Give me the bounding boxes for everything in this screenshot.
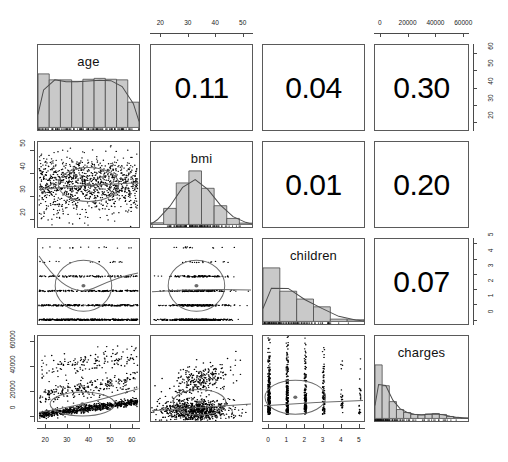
panel-graphic	[38, 239, 139, 324]
correlation-value: 0.20	[375, 168, 468, 202]
panel-variable-label: children	[263, 248, 364, 263]
axis-tick-label: 60000	[9, 331, 16, 351]
scatter-panel-children-charges	[262, 335, 365, 422]
histogram-bar	[72, 81, 83, 127]
histogram-bar	[176, 183, 189, 225]
axis-tick-label: 40	[19, 162, 26, 182]
scatter-panel-bmi-children	[150, 238, 253, 325]
loess-smoother	[264, 401, 363, 406]
axis-tick-label: 20	[149, 19, 171, 26]
scatter-points	[151, 351, 247, 421]
panel-graphic	[151, 336, 252, 421]
histogram-bar	[314, 307, 331, 322]
axis-tick-label: 40	[204, 19, 226, 26]
histogram-bar	[280, 291, 297, 321]
axis-tick-label: 50	[19, 139, 26, 159]
scatter-panel-age-charges	[37, 335, 140, 422]
correlation-value: 0.30	[375, 71, 468, 105]
histogram-bar	[396, 410, 403, 419]
correlation-panel-children-bmi: 0.01	[262, 141, 365, 228]
panel-variable-label: charges	[375, 345, 468, 360]
histogram-bar	[94, 78, 105, 127]
diagonal-panel-bmi: bmi	[150, 141, 253, 228]
histogram-bar	[105, 79, 116, 127]
correlation-panel-charges-bmi: 0.20	[374, 141, 469, 228]
rug-marks	[38, 128, 138, 130]
histogram-bar	[202, 188, 215, 224]
histogram-bar	[330, 319, 347, 321]
rug-marks	[264, 322, 349, 324]
histogram-bar	[83, 79, 94, 127]
correlation-panel-charges-children: 0.07	[374, 238, 469, 325]
centroid-marker	[293, 396, 297, 399]
correlation-panel-charges-age: 0.30	[374, 44, 469, 131]
panel-variable-label: age	[38, 54, 139, 69]
rug-marks	[375, 419, 456, 421]
histogram-bar	[418, 415, 425, 418]
diagonal-panel-children: children	[262, 238, 365, 325]
axis-tick-label: 60	[121, 436, 143, 443]
axis-rule	[34, 141, 35, 228]
correlation-panel-children-age: 0.04	[262, 44, 365, 131]
axis-tick-label: 20	[34, 436, 56, 443]
axis-tick-label: 60000	[452, 19, 474, 26]
scatter-panel-age-bmi	[37, 141, 140, 228]
axis-tick-label: 30	[177, 19, 199, 26]
axis-tick-label: 50	[232, 19, 254, 26]
axis-tick-label: 20	[487, 112, 494, 132]
histogram-bar	[263, 268, 280, 322]
scatter-points	[38, 246, 138, 321]
panel-graphic	[263, 336, 364, 421]
axis-tick-label: 0	[9, 405, 16, 425]
correlation-value: 0.07	[375, 265, 468, 299]
histogram-bar	[389, 402, 396, 419]
rug-marks	[152, 225, 240, 227]
histogram-bar	[227, 218, 240, 224]
scatter-panel-bmi-charges	[150, 335, 253, 422]
panel-graphic	[38, 336, 139, 421]
panel-variable-label: bmi	[151, 151, 252, 166]
diagonal-panel-charges: charges	[374, 335, 469, 422]
axis-tick-label: 30	[56, 436, 78, 443]
histogram-bar	[60, 80, 71, 128]
axis-rule	[262, 428, 365, 429]
correlation-value: 0.11	[151, 71, 252, 105]
histogram-bar	[38, 74, 49, 128]
axis-tick-label: 40	[78, 436, 100, 443]
scatter-panel-age-children	[37, 238, 140, 325]
correlation-value: 0.04	[263, 71, 364, 105]
axis-rule	[473, 238, 474, 325]
panel-graphic	[38, 142, 139, 227]
centroid-marker	[197, 401, 201, 404]
panel-graphic	[151, 239, 252, 324]
scatter-points	[39, 345, 138, 419]
diagonal-panel-age: age	[37, 44, 140, 131]
axis-rule	[473, 44, 474, 131]
correlation-value: 0.01	[263, 168, 364, 202]
axis-tick-label: 0	[487, 309, 494, 329]
histogram-bar	[189, 171, 202, 225]
axis-rule	[150, 33, 253, 34]
axis-tick-label: 40000	[9, 356, 16, 376]
centroid-marker	[194, 284, 198, 287]
axis-tick-label: 50	[99, 436, 121, 443]
axis-tick-label: 0	[369, 19, 391, 26]
axis-tick-label: 20000	[9, 380, 16, 400]
scatterplot-matrix: age0.110.040.30bmi0.010.20children0.07ch…	[0, 0, 508, 462]
histogram-bar	[49, 80, 60, 128]
axis-tick-label: 20	[19, 209, 26, 229]
histogram-bar	[375, 365, 382, 419]
axis-rule	[37, 428, 140, 429]
axis-tick-label: 40000	[424, 19, 446, 26]
axis-tick-label: 20000	[397, 19, 419, 26]
correlation-panel-bmi-age: 0.11	[150, 44, 253, 131]
loess-smoother	[39, 256, 138, 291]
axis-rule	[34, 335, 35, 422]
centroid-marker	[81, 284, 85, 287]
histogram-bar	[411, 414, 418, 418]
axis-tick-label: 5	[348, 436, 370, 443]
axis-rule	[374, 33, 469, 34]
axis-tick-label: 30	[19, 186, 26, 206]
